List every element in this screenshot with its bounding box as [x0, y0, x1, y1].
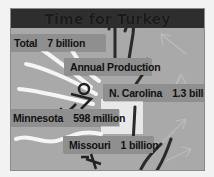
infographic-frame: Time for Turkey Total 7 billion Annual P… — [10, 8, 205, 171]
subtitle: Annual Production — [70, 61, 161, 73]
total-value: 7 billion — [47, 37, 85, 49]
state-value: 1 billion — [121, 139, 159, 151]
state-value: 1.3 billion — [172, 87, 205, 99]
state-value: 598 million — [73, 112, 125, 124]
state-name: Minnesota — [13, 112, 63, 124]
state-label-minnesota: Minnesota 598 million — [10, 109, 119, 126]
annual-production-label: Annual Production — [64, 58, 151, 75]
total-name: Total — [14, 37, 37, 49]
state-name: Missouri — [69, 139, 111, 151]
state-label-n-carolina: N. Carolina 1.3 billion — [103, 84, 205, 101]
chart-title: Time for Turkey — [44, 11, 170, 27]
state-name: N. Carolina — [109, 87, 162, 99]
total-label: Total 7 billion — [10, 34, 105, 51]
state-label-missouri: Missouri 1 billion — [63, 136, 153, 153]
turkey-foot-icon — [81, 154, 101, 169]
title-bar: Time for Turkey — [11, 9, 204, 28]
